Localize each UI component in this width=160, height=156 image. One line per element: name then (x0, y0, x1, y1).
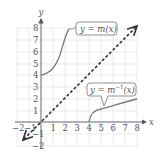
svg-text:6: 6 (33, 47, 38, 57)
svg-text:1: 1 (33, 106, 38, 116)
svg-text:7: 7 (123, 123, 128, 133)
svg-text:y = m(x): y = m(x) (79, 24, 117, 34)
svg-text:3: 3 (33, 82, 38, 92)
svg-text:−1: −1 (32, 129, 45, 139)
svg-text:8: 8 (33, 23, 38, 33)
svg-text:y = m−1(x): y = m−1(x) (89, 84, 135, 95)
label-m-inverse: y = m−1(x) (87, 83, 136, 106)
y-axis-label: y (38, 7, 44, 17)
label-m: y = m(x) (69, 22, 117, 35)
svg-text:2: 2 (63, 123, 68, 133)
svg-text:5: 5 (99, 123, 104, 133)
svg-text:−2: −2 (12, 123, 25, 133)
graph: x y −2 −1 1 2 3 4 5 6 7 8 8 7 6 5 4 3 2 … (0, 0, 160, 156)
svg-text:−2: −2 (32, 141, 45, 151)
svg-text:2: 2 (33, 94, 38, 104)
svg-text:6: 6 (111, 123, 116, 133)
svg-text:1: 1 (51, 123, 56, 133)
svg-text:3: 3 (75, 123, 80, 133)
svg-text:5: 5 (33, 59, 38, 69)
svg-text:8: 8 (135, 123, 140, 133)
svg-text:4: 4 (33, 70, 38, 80)
svg-text:7: 7 (33, 35, 38, 45)
x-axis-label: x (149, 117, 154, 127)
svg-text:4: 4 (87, 123, 92, 133)
